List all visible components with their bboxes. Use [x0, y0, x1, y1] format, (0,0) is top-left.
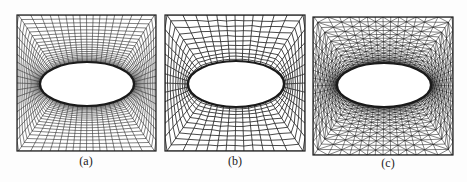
mesh-hole-a [40, 62, 134, 106]
mesh-hole-b [188, 61, 284, 107]
mesh-hole-c [337, 63, 431, 107]
caption-panel-c: (c) [381, 156, 394, 171]
mesh-comparison-figure: (a) (b) (c) [0, 0, 467, 182]
caption-panel-b: (b) [228, 154, 242, 169]
caption-panel-a: (a) [79, 154, 92, 169]
